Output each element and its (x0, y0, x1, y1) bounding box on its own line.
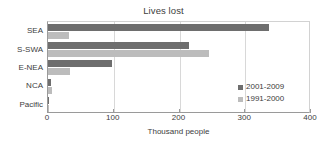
chart-title: Lives lost (0, 5, 327, 16)
x-tick-400: 400 (303, 113, 316, 122)
x-axis-ticks: 0100200300400 (47, 113, 310, 127)
x-tick-100: 100 (106, 113, 119, 122)
category-label-pacific: Pacific (19, 99, 43, 108)
bar-sea-2001-2009 (48, 24, 269, 31)
category-label-e-nea: E-NEA (19, 63, 43, 72)
legend-item-2001-2009[interactable]: 2001-2009 (238, 83, 284, 91)
x-tick-mark (244, 109, 245, 113)
x-tick-mark (310, 109, 311, 113)
category-label-sea: SEA (27, 26, 43, 35)
chart-container: Lives lost SEAS-SWAE-NEANCAPacific 01002… (0, 0, 327, 146)
legend-item-1991-2000[interactable]: 1991-2000 (238, 95, 284, 103)
x-tick-200: 200 (172, 113, 185, 122)
bar-sea-1991-2000 (48, 32, 69, 39)
legend-label: 1991-2000 (246, 95, 284, 103)
x-axis-title: Thousand people (47, 127, 310, 136)
bar-pacific-2001-2009 (48, 97, 49, 104)
bar-group (48, 22, 309, 40)
x-tick-mark (113, 109, 114, 113)
x-tick-300: 300 (238, 113, 251, 122)
bar-e-nea-2001-2009 (48, 60, 112, 67)
chart-legend: 2001-20091991-2000 (238, 83, 284, 103)
bar-group (48, 40, 309, 58)
category-label-s-swa: S-SWA (17, 44, 43, 53)
bar-s-swa-2001-2009 (48, 42, 189, 49)
bar-s-swa-1991-2000 (48, 50, 209, 57)
bar-pacific-1991-2000 (48, 105, 49, 112)
bar-group (48, 59, 309, 77)
category-label-nca: NCA (26, 81, 43, 90)
bar-nca-1991-2000 (48, 87, 52, 94)
legend-label: 2001-2009 (246, 83, 284, 91)
x-tick-0: 0 (45, 113, 49, 122)
category-axis-labels: SEAS-SWAE-NEANCAPacific (0, 21, 43, 113)
bar-e-nea-1991-2000 (48, 68, 70, 75)
x-tick-mark (179, 109, 180, 113)
legend-swatch-icon (238, 85, 243, 90)
bar-nca-2001-2009 (48, 79, 51, 86)
legend-swatch-icon (238, 97, 243, 102)
x-tick-mark (47, 109, 48, 113)
